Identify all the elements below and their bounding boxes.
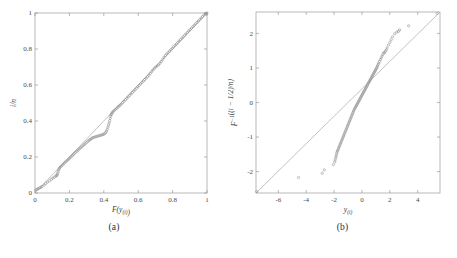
svg-text:4: 4 [416,196,420,204]
svg-text:0.4: 0.4 [99,196,108,204]
svg-text:0: 0 [33,196,37,204]
panel-b-ylabel: F−1((i − 1/2)/n) [228,78,239,127]
panel-b-plot: -6-4-2024-2-1012 y(i)F−1((i − 1/2)/n) [228,0,457,258]
svg-text:0.6: 0.6 [134,196,143,204]
svg-text:1: 1 [250,64,254,72]
panel-b: -6-4-2024-2-1012 y(i)F−1((i − 1/2)/n) (b… [228,0,457,258]
panel-a-caption: (a) [0,222,228,232]
svg-text:1: 1 [29,9,33,17]
svg-text:0.2: 0.2 [23,153,32,161]
svg-text:-2: -2 [247,168,253,176]
svg-text:-2: -2 [331,196,337,204]
svg-text:0.4: 0.4 [23,117,32,125]
svg-text:2: 2 [250,30,254,38]
panel-a-xlabel: F(y(i)) [111,205,131,217]
svg-text:-6: -6 [275,196,281,204]
panel-b-caption: (b) [228,222,457,232]
svg-text:0.2: 0.2 [65,196,74,204]
svg-text:2: 2 [388,196,392,204]
panel-b-reference-line [256,12,440,193]
svg-text:1: 1 [205,196,209,204]
panel-b-xlabel: y(i) [343,205,353,216]
panel-a: 00.20.40.60.8100.20.40.60.81 F(y(i))i/n … [0,0,228,258]
svg-text:0: 0 [29,189,33,197]
panel-a-plot: 00.20.40.60.8100.20.40.60.81 F(y(i))i/n [0,0,228,258]
svg-text:0.6: 0.6 [23,81,32,89]
svg-text:0: 0 [250,99,254,107]
svg-text:-4: -4 [303,196,309,204]
svg-text:0.8: 0.8 [168,196,177,204]
svg-text:0: 0 [360,196,364,204]
figure-container: 00.20.40.60.8100.20.40.60.81 F(y(i))i/n … [0,0,457,258]
svg-text:-1: -1 [247,133,253,141]
panel-b-data-points [256,12,439,193]
svg-text:0.8: 0.8 [23,45,32,53]
panel-a-ylabel: i/n [9,99,18,107]
